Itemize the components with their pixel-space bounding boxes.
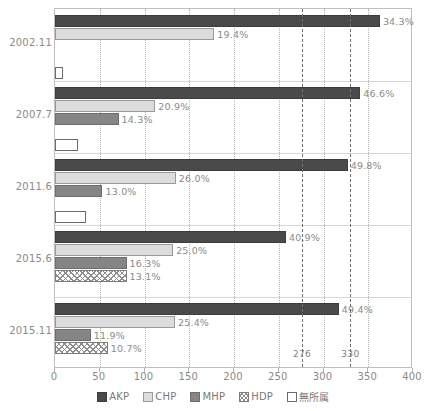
group-separator bbox=[55, 297, 411, 298]
bar-chp-2015.6 bbox=[55, 244, 173, 256]
x-tick-300: 300 bbox=[313, 371, 333, 382]
x-tick-50: 50 bbox=[92, 371, 105, 382]
group-separator bbox=[55, 153, 411, 154]
threshold-label-330: 330 bbox=[341, 349, 359, 359]
bar-value-label: 49.4% bbox=[342, 304, 373, 316]
x-tick-400: 400 bbox=[402, 371, 422, 382]
x-tick-200: 200 bbox=[223, 371, 243, 382]
x-tick-100: 100 bbox=[134, 371, 154, 382]
legend-swatch-chp-icon bbox=[143, 392, 153, 402]
bar-akp-2015.6 bbox=[55, 231, 286, 243]
bar-akp-2015.11 bbox=[55, 303, 339, 315]
legend-item-chp[interactable]: CHP bbox=[143, 391, 176, 402]
bar-value-label: 13.0% bbox=[105, 186, 136, 198]
bar-value-label: 34.3% bbox=[383, 16, 414, 28]
legend-label-chp: CHP bbox=[155, 391, 176, 402]
bar-value-label: 14.3% bbox=[122, 114, 153, 126]
legend-swatch-ind-icon bbox=[287, 392, 297, 402]
threshold-label-276: 276 bbox=[293, 349, 311, 359]
bar-akp-2002.11 bbox=[55, 15, 380, 27]
legend-swatch-hdp-icon bbox=[239, 392, 249, 402]
category-label-2015.11: 2015.11 bbox=[0, 325, 52, 336]
bar-chp-2007.7 bbox=[55, 100, 155, 112]
bar-value-label: 25.4% bbox=[178, 317, 209, 329]
chart-legend: AKPCHPMHPHDP無所属 bbox=[0, 389, 427, 404]
bar-mhp-2015.6 bbox=[55, 257, 127, 269]
legend-swatch-akp-icon bbox=[97, 392, 107, 402]
category-label-2002.11: 2002.11 bbox=[0, 37, 52, 48]
x-tick-150: 150 bbox=[178, 371, 198, 382]
legend-item-ind[interactable]: 無所属 bbox=[287, 389, 330, 404]
category-label-2011.6: 2011.6 bbox=[0, 181, 52, 192]
legend-item-mhp[interactable]: MHP bbox=[190, 391, 225, 402]
category-label-2007.7: 2007.7 bbox=[0, 109, 52, 120]
bar-value-label: 11.9% bbox=[94, 330, 125, 342]
bar-value-label: 19.4% bbox=[217, 29, 248, 41]
bar-value-label: 13.1% bbox=[130, 271, 161, 283]
threshold-line-330 bbox=[350, 9, 351, 367]
bar-hdp-2015.6 bbox=[55, 270, 127, 282]
bar-chp-2015.11 bbox=[55, 316, 175, 328]
bar-value-label: 20.9% bbox=[158, 101, 189, 113]
bar-akp-2007.7 bbox=[55, 87, 360, 99]
legend-item-hdp[interactable]: HDP bbox=[239, 391, 273, 402]
bar-chp-2002.11 bbox=[55, 28, 214, 40]
bar-mhp-2007.7 bbox=[55, 113, 119, 125]
bar-value-label: 26.0% bbox=[179, 173, 210, 185]
bar-value-label: 16.3% bbox=[130, 258, 161, 270]
legend-label-ind: 無所属 bbox=[299, 389, 330, 404]
x-tick-350: 350 bbox=[357, 371, 377, 382]
bar-value-label: 40.9% bbox=[289, 232, 320, 244]
bar-value-label: 10.7% bbox=[111, 343, 142, 355]
bar-ind-2011.6 bbox=[55, 211, 86, 223]
threshold-line-276 bbox=[302, 9, 303, 367]
bar-chp-2011.6 bbox=[55, 172, 176, 184]
group-separator bbox=[55, 81, 411, 82]
x-tick-250: 250 bbox=[268, 371, 288, 382]
bar-value-label: 49.8% bbox=[351, 160, 382, 172]
bar-mhp-2011.6 bbox=[55, 185, 102, 197]
category-label-2015.6: 2015.6 bbox=[0, 253, 52, 264]
seat-distribution-chart: 34.3%19.4%46.6%20.9%14.3%49.8%26.0%13.0%… bbox=[0, 0, 427, 411]
bar-value-label: 46.6% bbox=[363, 88, 394, 100]
legend-label-hdp: HDP bbox=[251, 391, 273, 402]
legend-label-mhp: MHP bbox=[202, 391, 225, 402]
legend-item-akp[interactable]: AKP bbox=[97, 391, 129, 402]
bar-value-label: 25.0% bbox=[176, 245, 207, 257]
legend-swatch-mhp-icon bbox=[190, 392, 200, 402]
bar-mhp-2015.11 bbox=[55, 329, 91, 341]
plot-area: 34.3%19.4%46.6%20.9%14.3%49.8%26.0%13.0%… bbox=[54, 8, 412, 368]
bar-hdp-2015.11 bbox=[55, 342, 108, 354]
legend-label-akp: AKP bbox=[109, 391, 129, 402]
bar-akp-2011.6 bbox=[55, 159, 348, 171]
bar-ind-2002.11 bbox=[55, 67, 63, 79]
x-tick-0: 0 bbox=[51, 371, 58, 382]
group-separator bbox=[55, 225, 411, 226]
bar-ind-2007.7 bbox=[55, 139, 78, 151]
